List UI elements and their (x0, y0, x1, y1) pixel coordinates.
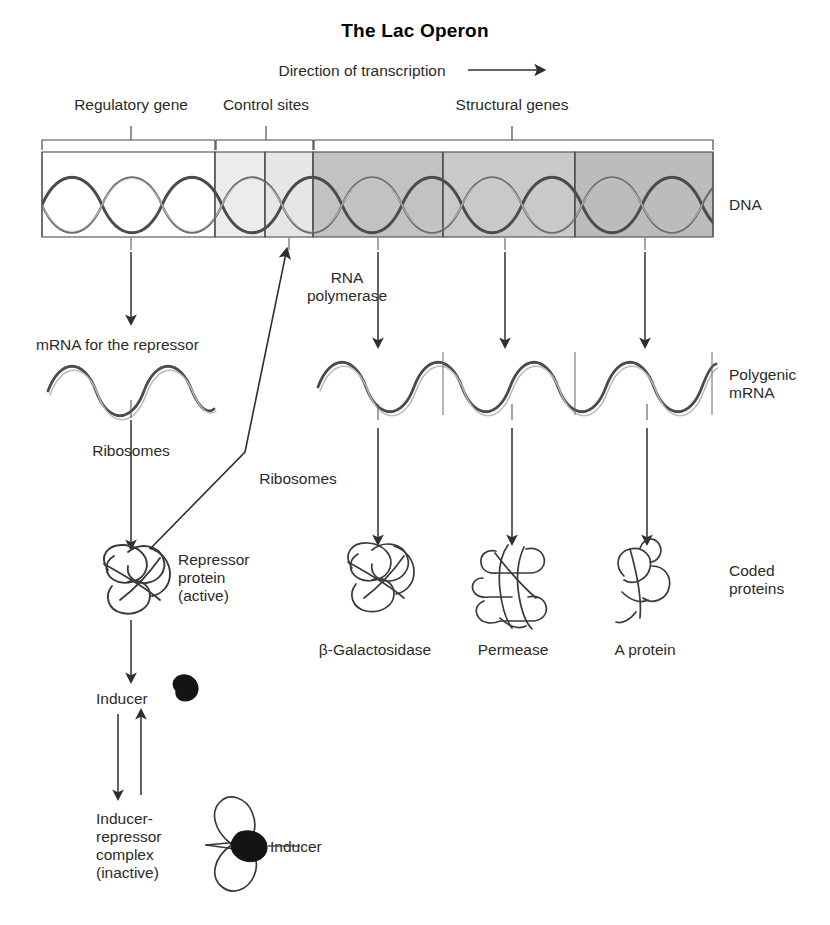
dna-tick-marks (131, 238, 645, 250)
polygenic-mrna-dividers (443, 352, 712, 415)
dna-segment-box-p (215, 152, 265, 237)
inducer-molecule (173, 675, 198, 701)
dna-strand-boxes (42, 152, 713, 237)
diagram-graphics (0, 0, 830, 925)
dna-segment-box-i (42, 152, 215, 237)
permease-shape (472, 545, 546, 629)
bracket-structural-genes (314, 126, 713, 150)
repressor-protein-shape (104, 545, 170, 614)
bound-inducer-molecule (231, 831, 267, 862)
beta-galactosidase-shape (348, 543, 414, 612)
bracket-control-sites (216, 126, 313, 150)
bracket-regulatory-gene (42, 126, 215, 150)
translation-arrows (131, 420, 647, 545)
repressor-binds-operator-arrow (150, 253, 286, 549)
lac-operon-diagram: The Lac Operon Direction of transcriptio… (0, 0, 830, 925)
repressor-mrna-wave (48, 366, 216, 420)
a-protein-shape (616, 539, 670, 622)
reversible-reaction-arrows (118, 714, 141, 795)
transcription-arrows (131, 252, 645, 343)
dna-segment-box-z (313, 152, 443, 237)
polygenic-mrna-tick-marks (378, 404, 647, 420)
